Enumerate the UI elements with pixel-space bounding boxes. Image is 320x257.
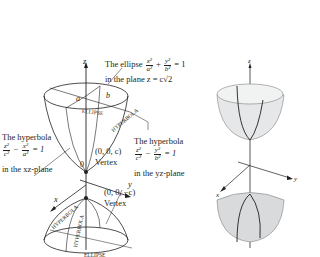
left-z-axis-label: z bbox=[83, 56, 86, 66]
semi-axis-a-label: a bbox=[76, 94, 80, 104]
semi-axis-b-label: b bbox=[106, 91, 110, 101]
hyperbola-xz-title: The hyperbola bbox=[2, 132, 51, 142]
right-x-axis-label: x bbox=[216, 190, 219, 200]
ellipse-annotation: The ellipse x²a² + y²b² = 1 bbox=[105, 58, 185, 73]
right-z-axis-label: z bbox=[248, 56, 251, 66]
ellipse-prefix: The ellipse bbox=[105, 59, 143, 69]
hyperbola-xz-equation: z²c² − x²a² = 1 bbox=[2, 143, 44, 158]
vertex-bottom-coords: (0, 0, −c) bbox=[104, 187, 135, 197]
vertex-bottom-label: Vertex bbox=[104, 198, 126, 208]
ellipse-top-label: ELLIPSE bbox=[82, 106, 104, 118]
ellipse-bottom-label: ELLIPSE bbox=[84, 250, 105, 257]
hyperbola-xz-plane: in the xz-plane bbox=[2, 164, 53, 174]
right-y-axis-label: y bbox=[294, 174, 297, 184]
hyperbola-yz-title: The hyperbola bbox=[134, 136, 183, 146]
ellipse-plane-text: in the plane z = c√2 bbox=[105, 74, 172, 84]
vertex-top-label: Vertex bbox=[95, 157, 117, 167]
vertex-top-coords: (0, 0, c) bbox=[95, 146, 121, 156]
left-hyperboloid-diagram bbox=[0, 0, 320, 257]
hyperbola-yz-equation: z²c² − y²b² = 1 bbox=[134, 147, 176, 162]
left-x-axis-label: x bbox=[54, 194, 58, 204]
hyperbola-yz-plane: in the yz-plane bbox=[134, 168, 185, 178]
origin-label: 0 bbox=[80, 160, 84, 170]
